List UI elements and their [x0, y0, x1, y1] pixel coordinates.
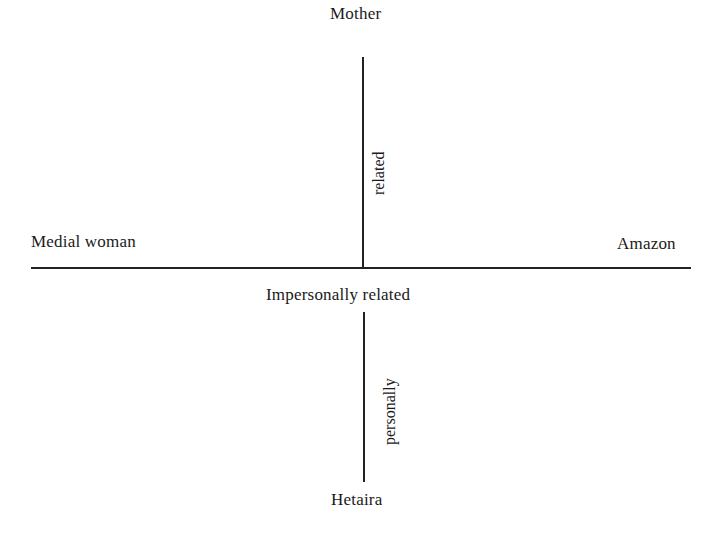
quadrant-diagram: Mother related Medial woman Amazon Imper…: [0, 0, 716, 533]
upper-vertical-axis: [362, 57, 364, 268]
lower-vertical-axis: [363, 312, 365, 482]
horizontal-axis: [31, 267, 691, 269]
upper-vertical-label: related: [370, 151, 388, 195]
pole-left-label: Medial woman: [31, 232, 136, 252]
pole-bottom-label: Hetaira: [331, 490, 382, 510]
lower-vertical-label: personally: [381, 378, 399, 445]
center-axis-label: Impersonally related: [266, 285, 410, 305]
pole-right-label: Amazon: [617, 234, 676, 254]
pole-top-label: Mother: [330, 4, 381, 24]
